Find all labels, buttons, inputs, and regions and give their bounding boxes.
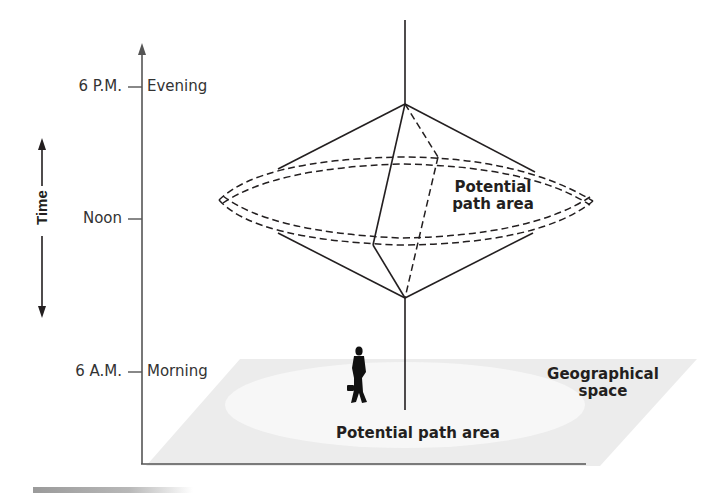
time-arrowhead-down-icon (38, 306, 46, 318)
prism-hidden-edges (405, 104, 438, 298)
tick-label-morning: Morning (147, 362, 208, 380)
time-axis-label: Time (29, 197, 55, 225)
tick-label-6am: 6 A.M. (40, 362, 122, 380)
y-axis-arrowhead (138, 43, 146, 55)
time-arrowhead-up-icon (38, 138, 46, 150)
footer-gradient-bar (33, 487, 193, 493)
prism-path-area-label-line2: path area (446, 195, 540, 213)
tick-label-6pm: 6 P.M. (40, 77, 122, 95)
time-geography-diagram (0, 0, 709, 494)
geographical-space-label-line2: space (546, 382, 660, 400)
tick-label-evening: Evening (147, 77, 207, 95)
prism-path-area-label-line1: Potential (448, 178, 538, 196)
ground-path-area-label: Potential path area (336, 424, 500, 442)
geographical-space-label-line1: Geographical (546, 365, 660, 383)
